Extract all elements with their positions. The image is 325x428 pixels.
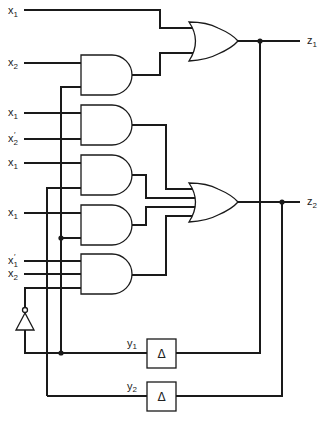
- and-gate-3-icon: [81, 155, 132, 195]
- input-label-x1-top: x1: [8, 4, 19, 19]
- input-label-x2-and5: x2: [8, 267, 19, 282]
- delay-elements: Δ Δ: [147, 339, 176, 411]
- junction-dot-y1-and4: [58, 235, 63, 240]
- delay-2-symbol: Δ: [157, 390, 166, 404]
- inverter-triangle-icon: [16, 313, 34, 330]
- wire-y1-bus: [61, 87, 81, 353]
- inverter-bubble-icon: [23, 308, 28, 313]
- wire-y1-to-inverter: [25, 330, 61, 353]
- and-gate-2-icon: [81, 105, 132, 145]
- input-label-x1-and2: x1: [8, 106, 19, 121]
- junction-dot-z1: [257, 38, 262, 43]
- output-label-z1: z1: [307, 34, 318, 49]
- and-gate-1-icon: [81, 55, 132, 95]
- wire-inverter-to-and5: [25, 288, 81, 308]
- or-gate-2-icon: [189, 183, 238, 222]
- state-label-y2: y2: [127, 380, 138, 394]
- junction-dot-y1-inverter: [58, 350, 63, 355]
- input-label-x2: x2: [8, 56, 19, 71]
- input-labels: x1 x2 x1 x2′ x1 x1 x1′ x2: [8, 4, 19, 282]
- output-labels: z1 z2: [307, 34, 318, 210]
- input-label-x1-and3: x1: [8, 156, 19, 171]
- output-label-z2: z2: [307, 195, 318, 210]
- and-gate-5-icon: [81, 254, 132, 294]
- input-label-x2-prime: x2′: [8, 130, 19, 147]
- wire-x1-to-or1: [24, 10, 196, 28]
- wire-y2-bus: [47, 188, 81, 396]
- delay-1-symbol: Δ: [157, 347, 166, 361]
- wires: [24, 10, 300, 396]
- wire-and2-to-or2: [132, 125, 198, 189]
- or-gates: [189, 22, 238, 222]
- state-labels: y1 y2: [127, 337, 138, 394]
- and-gates: [81, 55, 132, 294]
- logic-circuit-diagram: x1 x2 x1 x2′ x1 x1 x1′ x2: [0, 0, 325, 428]
- input-label-x1-and4: x1: [8, 206, 19, 221]
- or-gate-1-icon: [189, 22, 238, 61]
- and-gate-4-icon: [81, 205, 132, 245]
- state-label-y1: y1: [127, 337, 138, 351]
- junction-dot-z2: [279, 199, 284, 204]
- inverter: [16, 308, 34, 331]
- wire-and1-to-or1: [132, 53, 196, 75]
- wire-z2-feedback: [176, 202, 282, 396]
